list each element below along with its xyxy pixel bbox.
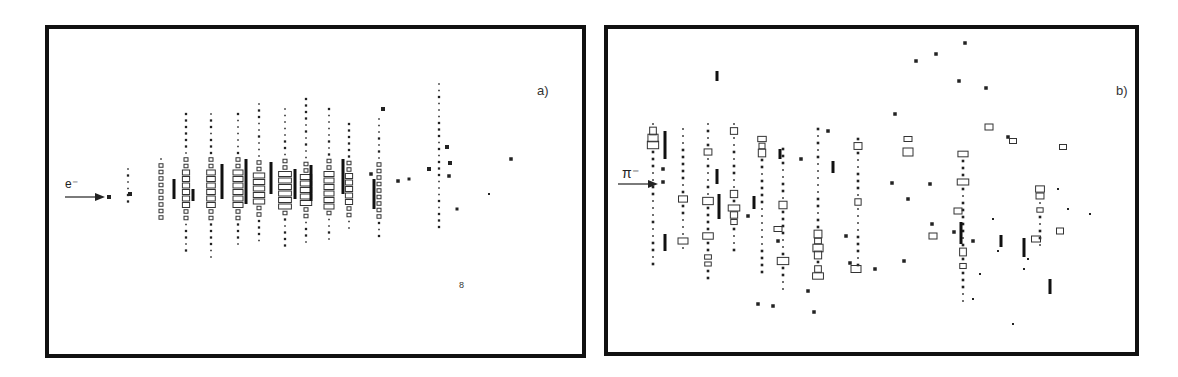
panel-b-pion-shower: b) π⁻ — [604, 25, 1139, 356]
hit-display-a — [49, 29, 582, 354]
hit-display-b — [608, 29, 1135, 352]
panel-a-electron-shower: a) e⁻ 8 — [45, 25, 586, 358]
